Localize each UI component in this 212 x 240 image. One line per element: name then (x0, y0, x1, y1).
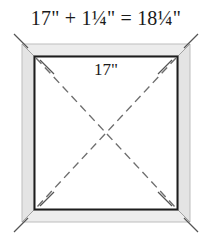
figure-canvas: 17" + 1¼" = 18¼" 17" (0, 0, 212, 240)
frame-diagram (0, 0, 212, 240)
extension-tick-bottom-right (184, 218, 198, 232)
inner-dimension-label: 17" (0, 60, 212, 80)
frame-rail-top (22, 44, 190, 56)
extension-tick-top-right (184, 34, 198, 48)
frame-rail-bottom (22, 210, 190, 222)
outer-dimension-equation: 17" + 1¼" = 18¼" (0, 6, 212, 30)
extension-tick-top-left (14, 34, 28, 48)
extension-tick-bottom-left (14, 218, 28, 232)
